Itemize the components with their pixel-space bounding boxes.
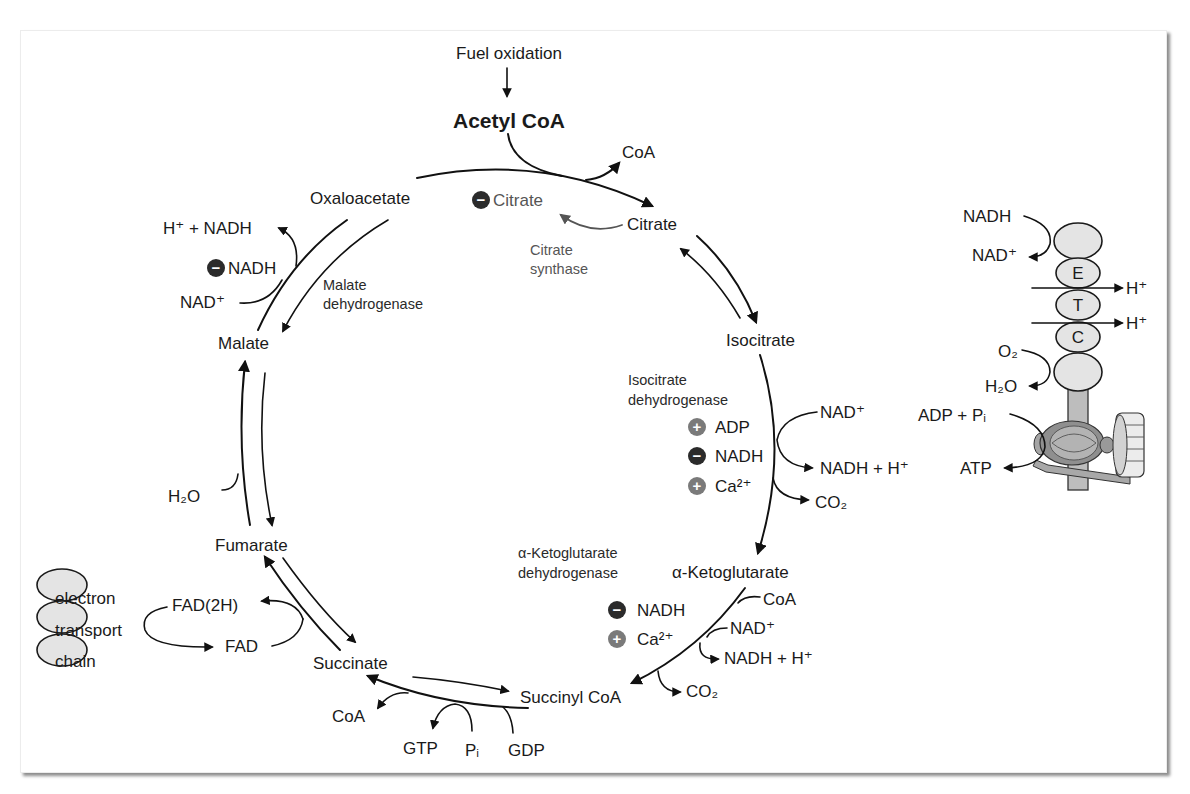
etc-left-complex: electron transport chain: [37, 569, 122, 671]
complex-i-icon: [1054, 223, 1102, 259]
regulator-calcium-label: Ca²⁺: [637, 630, 673, 649]
succinyl-coa-label: Succinyl CoA: [520, 688, 622, 707]
water-in-line: [222, 474, 238, 490]
succinate-label: Succinate: [313, 654, 388, 673]
h-nadh-label: H⁺ + NADH: [163, 219, 252, 238]
fad2h-out-arrow: [262, 601, 303, 619]
complex-iv-icon: [1054, 353, 1102, 391]
etc-letter-t: T: [1073, 296, 1083, 315]
acetyl-coa-label: Acetyl CoA: [453, 109, 565, 132]
fuel-oxidation-label: Fuel oxidation: [456, 44, 562, 63]
co2-release-arrow: [773, 478, 808, 500]
coa-release-arrow: [378, 693, 408, 708]
fad-in-line: [272, 619, 303, 646]
fumarate-to-malate-arrow: [241, 362, 250, 525]
etc-left-line1: electron: [55, 589, 115, 608]
oxygen-label: O₂: [998, 342, 1018, 361]
c-ring-face: [1113, 415, 1127, 475]
gdp-in-line: [503, 707, 513, 733]
malate-to-fumarate-arrow: [262, 373, 272, 525]
inhibitor-badge: −: [472, 191, 490, 209]
nad-label: NAD⁺: [180, 293, 225, 312]
coa-in-line: [738, 597, 760, 603]
regulator-adp-label: ADP: [715, 418, 750, 437]
co2-out-arrow: [658, 671, 680, 692]
coa-release-arrow: [586, 163, 619, 180]
coa-in-label: CoA: [763, 590, 797, 609]
atp-label: ATP: [960, 459, 992, 478]
etc-left-line2: transport: [55, 621, 122, 640]
regulator-calcium-label: Ca²⁺: [715, 477, 751, 496]
minus-glyph: −: [613, 601, 622, 618]
malate-dh-label-line1: Malate: [323, 277, 367, 293]
plus-glyph: +: [693, 477, 702, 494]
fad-label: FAD: [225, 637, 258, 656]
citrate-to-isocitrate-arrow: [697, 236, 756, 322]
malate-label: Malate: [218, 334, 269, 353]
isocitrate-dh-label-line2: dehydrogenase: [628, 392, 728, 408]
succinate-to-succinylcoa-arrow: [413, 677, 508, 691]
nad-label: NAD⁺: [820, 403, 865, 422]
oxygen-reduction-arrow: [1022, 350, 1050, 386]
activator-badge: +: [688, 477, 706, 495]
tca-cycle-diagram: Fuel oxidation Acetyl CoA CoA Oxaloaceta…: [0, 0, 1190, 794]
nad-to-nadh-arrow: [777, 412, 817, 468]
inhibitor-badge: −: [207, 259, 225, 277]
etc-left-line3: chain: [55, 652, 96, 671]
gamma-stalk: [1100, 437, 1114, 453]
nadh-oxidation-arrow: [1024, 216, 1050, 257]
akg-dh-label-line2: dehydrogenase: [518, 565, 618, 581]
citrate-synthase-label-line2: synthase: [530, 261, 588, 277]
citrate-inhibitor-label: Citrate: [493, 191, 543, 210]
fumarate-to-succinate-arrow: [283, 558, 355, 642]
proton-label: H⁺: [1126, 279, 1147, 298]
isocitrate-dh-label-line1: Isocitrate: [628, 372, 687, 388]
isocitrate-label: Isocitrate: [726, 331, 795, 350]
nadh-out-arrow: [700, 643, 718, 659]
coa-released-label: CoA: [622, 143, 656, 162]
malate-dh-label-line2: dehydrogenase: [323, 296, 423, 312]
citrate-feedback-arrow: [561, 215, 622, 229]
minus-glyph: −: [212, 259, 221, 276]
regulator-nadh-label: NADH: [715, 447, 763, 466]
coa-label: CoA: [332, 707, 366, 726]
alpha-ketoglutarate-label: α-Ketoglutarate: [672, 563, 789, 582]
gtp-label: GTP: [403, 739, 438, 758]
etc-letter-e: E: [1072, 264, 1083, 283]
regulator-nadh-label: NADH: [637, 601, 685, 620]
succinate-to-fumarate-arrow: [265, 557, 340, 650]
co2-label: CO₂: [815, 493, 847, 512]
minus-glyph: −: [693, 447, 702, 464]
nadh-h-label: NADH + H⁺: [724, 649, 813, 668]
plus-glyph: +: [613, 630, 622, 647]
nadh-label: NADH: [963, 207, 1011, 226]
regulator-nadh-label: NADH: [228, 259, 276, 278]
f1-lobe: [1050, 426, 1098, 460]
nad-label: NAD⁺: [972, 246, 1017, 265]
atp-synthase-icon: [1033, 413, 1144, 484]
pi-to-gtp-arrow: [433, 704, 472, 731]
activator-badge: +: [608, 630, 626, 648]
co2-label: CO₂: [686, 682, 718, 701]
citrate-label: Citrate: [627, 215, 677, 234]
etc-letter-c: C: [1072, 328, 1084, 347]
water-label: H₂O: [985, 377, 1017, 396]
fad2h-label: FAD(2H): [172, 596, 238, 615]
proton-label: H⁺: [1126, 314, 1147, 333]
nadh-h-label: NADH + H⁺: [820, 459, 909, 478]
adp-pi-label: ADP + Pᵢ: [918, 406, 986, 425]
minus-glyph: −: [477, 191, 486, 208]
isocitrate-to-citrate-arrow: [681, 249, 740, 318]
akg-dh-label-line1: α-Ketoglutarate: [518, 545, 617, 561]
nad-in-line: [240, 280, 282, 303]
nadh-out-arrow: [279, 228, 297, 266]
activator-badge: +: [688, 418, 706, 436]
citrate-synthase-label-line1: Citrate: [530, 242, 573, 258]
oaa-to-malate-arrow: [283, 220, 388, 331]
inhibitor-badge: −: [608, 601, 626, 619]
oxaloacetate-label: Oxaloacetate: [310, 189, 410, 208]
gdp-label: GDP: [508, 741, 545, 760]
inhibitor-badge: −: [688, 447, 706, 465]
etc-right-panel: E T C H⁺ H⁺ NADH NAD⁺ O₂ H₂O ADP + Pᵢ AT…: [918, 207, 1147, 490]
plus-glyph: +: [693, 418, 702, 435]
